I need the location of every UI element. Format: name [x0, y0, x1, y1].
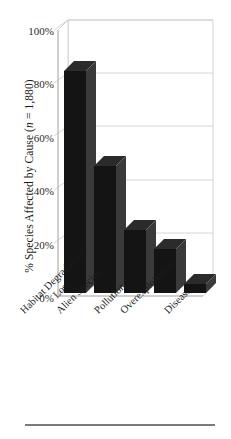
x-axis-category-labels: Habitat Degradation/ Loss Alien Species … — [0, 296, 231, 416]
bottom-divider-rule — [25, 424, 215, 426]
bar-chart: % Species Affected by Cause (n = 1,880) … — [0, 0, 231, 439]
